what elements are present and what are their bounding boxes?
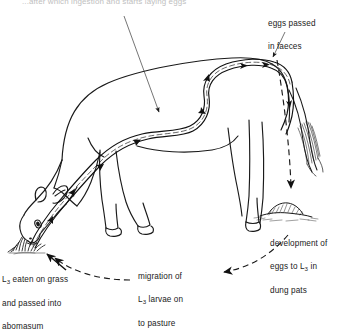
digestive-tract-tube [30,59,294,248]
cow-outline [20,58,290,244]
label-development-line1: development of [270,239,327,248]
label-migration-line3: to pasture [138,319,175,328]
label-eaten-line1b: eaten on grass [10,275,68,284]
label-eggs-faeces-line2: in faeces [268,42,302,51]
label-eaten-line3: abomasum [2,322,43,331]
tract-flow-arrows [47,62,292,224]
label-development-line3: dung pats [270,286,307,295]
dung-pat [254,203,318,221]
label-larvae-eaten-on-grass: L3 eaten on grass and passed into abomas… [2,262,78,333]
label-development-of-eggs: development of eggs to L3 in dung pats [270,226,341,297]
leader-line-to-abomasum [124,16,159,112]
label-eaten-line2: and passed into [2,299,61,308]
label-eggs-passed-in-faeces: eggs passed in faeces [268,6,340,52]
label-migration-line1: migration of [138,272,182,281]
caption-top-cutoff: ...after which ingestion and starts layi… [22,0,237,8]
label-migration-line2b: larvae on [146,295,183,304]
label-migration-of-larvae: migration of L3 larvae on to pasture [138,259,204,330]
label-development-line2b: in [308,262,317,271]
label-eggs-faeces-line1: eggs passed [268,19,316,28]
label-development-line2a: eggs to L [270,262,305,271]
